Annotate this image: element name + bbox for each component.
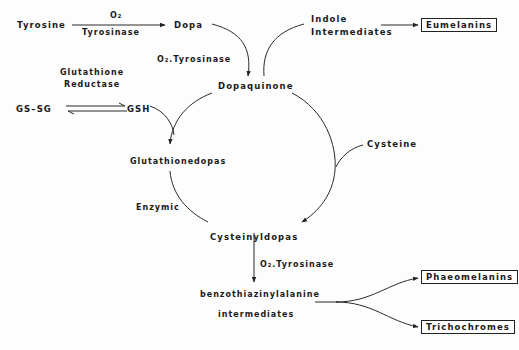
node-phaeomelanins: Phaeomelanins (421, 270, 518, 284)
node-dopa: Dopa (174, 20, 203, 30)
label-tyrosinase-tyr-dopa: Tyrosinase (82, 28, 140, 38)
node-benzothiazinylalanine-line2: intermediates (218, 310, 294, 320)
node-gsh: GSH (127, 104, 151, 114)
label-reductase: Reductase (64, 80, 120, 90)
node-cysteine: Cysteine (367, 139, 417, 149)
node-indole-line1: Indole (311, 14, 347, 24)
node-eumelanins: Eumelanins (421, 18, 497, 32)
node-gssg: GS–SG (16, 104, 52, 114)
node-dopaquinone: Dopaquinone (218, 81, 294, 91)
pathway-diagram: Tyrosine O₂ Tyrosinase Dopa O₂.Tyrosinas… (0, 0, 519, 350)
label-o2-tyr-dopa: O₂ (110, 11, 122, 21)
label-o2-tyrosinase-dopa-dq: O₂.Tyrosinase (157, 55, 231, 65)
node-tyrosine: Tyrosine (17, 20, 66, 30)
label-enzymic: Enzymic (136, 203, 180, 213)
node-glutathionedopas: Glutathionedopas (130, 157, 226, 167)
node-benzothiazinylalanine-line1: benzothiazinylalanine (200, 290, 320, 300)
node-trichochromes: Trichochromes (421, 320, 515, 334)
node-cysteinyldopas: Cysteinyldopas (210, 232, 298, 242)
node-indole-line2: Intermediates (311, 27, 393, 37)
label-o2-tyrosinase-cys-benzo: O₂.Tyrosinase (260, 260, 334, 270)
label-glutathione: Glutathione (60, 68, 124, 78)
